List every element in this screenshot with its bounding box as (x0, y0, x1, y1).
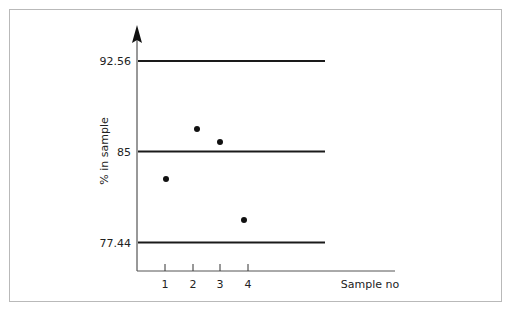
data-point (163, 176, 169, 182)
y-tick-label: 92.56 (100, 55, 132, 68)
y-tick-label: 85 (117, 146, 131, 159)
y-axis-label: % in sample (98, 117, 111, 185)
data-point (241, 217, 247, 223)
x-axis-label: Sample no (341, 278, 400, 291)
y-tick-label: 77.44 (100, 237, 132, 250)
data-point (194, 126, 200, 132)
data-point (217, 139, 223, 145)
x-tick-label: 1 (162, 278, 169, 291)
x-tick-label: 4 (245, 278, 252, 291)
control-chart: 92.56 85 77.44 1 2 3 4 Sample no % in sa… (0, 0, 511, 316)
x-tick-label: 2 (190, 278, 197, 291)
x-tick-label: 3 (217, 278, 224, 291)
